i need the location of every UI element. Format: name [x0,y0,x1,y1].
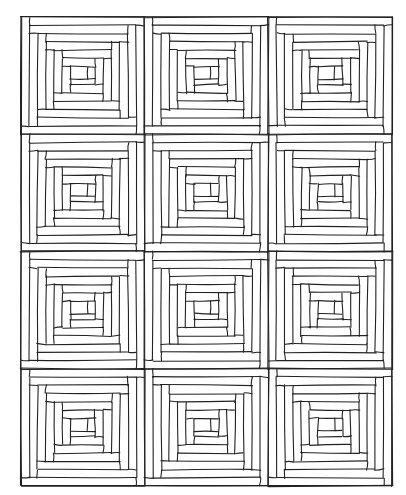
strip-edge [277,33,284,34]
strip-edge [252,117,261,118]
strip-edge [153,369,154,378]
strip-edge [317,436,318,445]
strip-edge [162,469,252,470]
strip-edge [342,410,343,419]
strip-edge [285,109,292,110]
strip-edge [294,343,367,344]
strip-edge [187,418,194,419]
strip-edge [136,25,137,126]
strip-edge [218,59,219,67]
strip-edge [103,327,104,335]
strip-edge [211,418,212,431]
strip-edge [87,419,88,431]
strip-edge [294,41,367,42]
strip-edge [218,184,219,201]
strip-edge [252,33,253,118]
strip-edge [178,218,235,219]
strip-edge [334,67,335,80]
strip-edge [368,393,376,394]
strip-edge [383,126,384,134]
strip-edge [70,84,71,92]
strip-edge [292,167,301,168]
strip-edge [368,159,376,160]
strip-edge [119,394,120,461]
strip-edge [195,436,219,437]
strip-edge [62,293,63,327]
strip-edge [194,84,219,86]
strip-edge [45,394,46,462]
strip-edge [70,66,95,67]
strip-edge [350,410,351,445]
strip-edge [128,469,136,470]
strip-edge [144,360,153,361]
strip-edge [219,319,227,320]
strip-edge [259,361,260,368]
strip-edge [318,319,343,320]
strip-edge [53,102,54,110]
strip-edge [62,285,63,292]
strip-edge [21,477,29,478]
strip-edge [46,401,54,402]
strip-edge [30,243,136,244]
strip-edge [236,453,243,454]
strip-edge [38,33,128,34]
strip-edge [235,276,236,285]
strip-edge [359,452,367,453]
strip-edge [210,301,211,315]
strip-edge [70,418,96,419]
strip-edge [227,409,228,444]
strip-edge [29,369,30,376]
strip-edge [375,469,384,471]
strip-edge [301,219,302,227]
strip-edge [318,66,319,84]
strip-edge [119,158,120,227]
strip-edge [268,252,269,369]
strip-edge [46,167,54,168]
strip-edge [95,184,96,202]
strip-edge [70,319,71,327]
strip-edge [169,394,170,461]
strip-edge [383,26,384,127]
strip-edge [318,66,343,67]
strip-edge [30,25,136,26]
strip-edge [62,59,63,93]
strip-edge [310,210,350,211]
strip-edge [350,328,351,336]
strip-edge [334,300,335,313]
strip-edge [318,85,343,86]
strip-edge [54,444,62,445]
strip-edge [169,158,170,226]
strip-edge [260,259,261,360]
strip-edge [251,143,252,150]
strip-edge [194,66,219,67]
strip-edge [70,79,96,80]
strip-edge [152,243,260,244]
strip-edge [375,25,376,33]
strip-edge [284,151,285,234]
strip-edge [276,376,277,477]
strip-edge [127,33,128,118]
strip-edge [243,276,244,344]
strip-edge [136,377,144,378]
strip-edge [318,301,343,302]
strip-edge [37,343,46,344]
strip-edge [218,66,219,84]
strip-edge [137,260,144,261]
strip-edge [95,59,96,68]
strip-edge [317,184,318,203]
strip-edge [276,143,277,244]
strip-edge [104,292,112,293]
strip-edge [375,117,383,118]
strip-edge [309,66,318,67]
strip-edge [343,436,351,437]
strip-edge [186,175,227,176]
strip-edge [310,58,311,93]
strip-edge [243,394,244,461]
strip-edge [301,210,310,211]
strip-edge [235,159,236,167]
strip-edge [21,126,29,127]
strip-edge [219,176,220,184]
strip-edge [383,260,384,361]
strip-edge [318,314,341,315]
strip-edge [186,58,187,94]
